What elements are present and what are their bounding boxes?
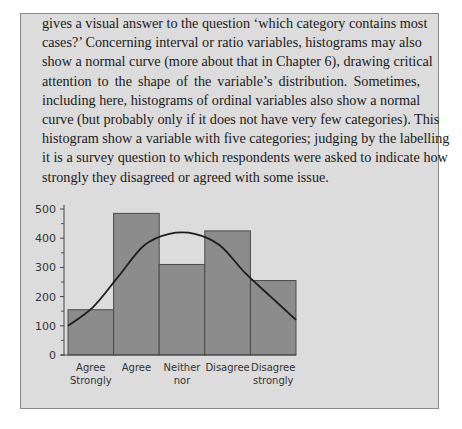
histogram-bar bbox=[159, 264, 205, 355]
y-tick-label: 400 bbox=[35, 232, 56, 245]
y-tick-label: 500 bbox=[35, 203, 56, 216]
x-category-label: Strongly bbox=[70, 375, 112, 386]
x-category-label: Neither bbox=[164, 362, 202, 373]
y-tick-label: 300 bbox=[35, 261, 56, 274]
x-category-label: strongly bbox=[253, 375, 294, 386]
histogram-bar bbox=[205, 231, 251, 355]
histogram-bar bbox=[68, 310, 114, 355]
histogram-bar bbox=[114, 213, 160, 355]
y-tick-label: 100 bbox=[35, 320, 56, 333]
y-tick-label: 0 bbox=[49, 349, 56, 362]
x-category-label: nor bbox=[174, 375, 191, 386]
x-category-label: Disagree bbox=[251, 362, 295, 373]
histogram-chart: 0100200300400500AgreeStronglyAgreeNeithe… bbox=[0, 0, 462, 429]
x-category-label: Agree bbox=[122, 362, 151, 373]
x-category-label: Agree bbox=[76, 362, 105, 373]
histogram-bar bbox=[250, 281, 296, 355]
y-tick-label: 200 bbox=[35, 291, 56, 304]
x-category-label: Disagree bbox=[205, 362, 249, 373]
